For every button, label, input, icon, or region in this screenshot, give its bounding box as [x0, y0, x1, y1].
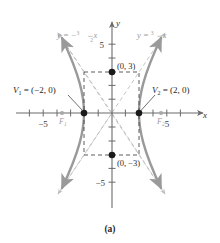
focus-left-dot: [60, 111, 64, 115]
hyperbola-left-branch-upper: [62, 38, 84, 113]
x-axis-label: x: [202, 110, 207, 120]
point-b-positive-dot: [109, 69, 116, 76]
point-b-negative-dot: [109, 152, 116, 159]
focus-left-label: F1: [58, 117, 67, 127]
hyperbola-figure: x y −5 5 5 −5 F1 F2 y = −3 2 x y = 3 2 x…: [0, 0, 220, 243]
axes: [16, 22, 203, 208]
point-bottom-label: (0, −3): [117, 158, 140, 168]
vertex-left-dot: [81, 110, 88, 117]
y-tick-label-5: 5: [100, 40, 105, 50]
vertex-right-leader: [141, 95, 156, 111]
vertex-left-label: V1 = (−2, 0): [13, 85, 56, 96]
asymptote-left-variable: x: [93, 30, 98, 40]
x-tick-label-negative-5: −5: [38, 119, 48, 129]
hyperbola-right-branch-upper: [139, 38, 161, 113]
vertex-right-label: V2 = (2, 0): [152, 85, 190, 96]
vertex-left-leader: [68, 95, 83, 111]
y-tick-label-negative-5: −5: [95, 178, 105, 188]
y-axis-label: y: [115, 18, 120, 28]
asymptote-right-label: y = 3: [136, 30, 154, 40]
figure-caption: (a): [104, 224, 115, 235]
graph-canvas: x y −5 5 5 −5 F1 F2 y = −3 2 x y = 3 2 x…: [0, 0, 220, 243]
x-tick-label-5: 5: [165, 119, 170, 129]
point-top-label: (0, 3): [117, 61, 136, 71]
focus-right-label: F2: [156, 117, 165, 127]
asymptote-right-variable: x: [162, 30, 167, 40]
asymptote-left-label: y = −3: [56, 30, 80, 40]
focus-right-dot: [159, 111, 163, 115]
